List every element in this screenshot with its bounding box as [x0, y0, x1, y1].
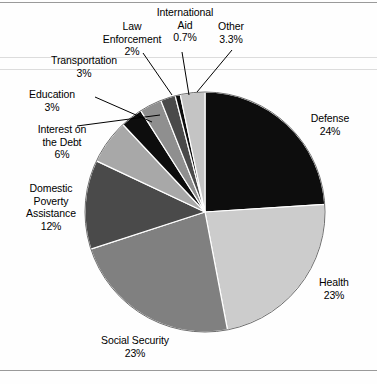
- transportation-value: 3%: [32, 67, 136, 80]
- slice-label-other: Other 3.3%: [198, 20, 264, 45]
- domestic-poverty-assistance-value: 12%: [8, 220, 94, 233]
- law-enforcement-label-line1: Law: [96, 20, 168, 33]
- domestic-poverty-assistance-label-line1: Domestic: [8, 182, 94, 195]
- pie-slice-defense[interactable]: [205, 92, 325, 212]
- slice-label-health: Health 23%: [298, 276, 370, 301]
- interest-on-the-debt-value: 6%: [22, 148, 102, 161]
- slice-label-law-enforcement: Law Enforcement 2%: [96, 20, 168, 58]
- health-value: 23%: [298, 289, 370, 302]
- domestic-poverty-assistance-label-line3: Assistance: [8, 207, 94, 220]
- international-aid-label-line1: International: [140, 6, 230, 19]
- slice-label-defense: Defense 24%: [290, 112, 370, 137]
- slice-label-education: Education 3%: [12, 88, 92, 113]
- interest-on-the-debt-label-line1: Interest on: [22, 123, 102, 136]
- defense-label: Defense: [290, 112, 370, 125]
- transportation-label: Transportation: [32, 54, 136, 67]
- slice-label-interest-on-the-debt: Interest on the Debt 6%: [22, 123, 102, 161]
- slice-label-social-security: Social Security 23%: [74, 334, 196, 359]
- pie-chart-page: International Aid 0.7% Other 3.3% Law En…: [0, 0, 377, 384]
- leader-line-international-aid: [182, 52, 189, 95]
- education-label: Education: [12, 88, 92, 101]
- leader-line-law-enforcement: [143, 53, 172, 95]
- other-value: 3.3%: [198, 33, 264, 46]
- slice-label-transportation: Transportation 3%: [32, 54, 136, 79]
- interest-on-the-debt-label-line2: the Debt: [22, 136, 102, 149]
- social-security-label: Social Security: [74, 334, 196, 347]
- leader-line-other: [197, 50, 232, 92]
- law-enforcement-label-line2: Enforcement: [96, 33, 168, 46]
- social-security-value: 23%: [74, 347, 196, 360]
- defense-value: 24%: [290, 125, 370, 138]
- other-label: Other: [198, 20, 264, 33]
- education-value: 3%: [12, 101, 92, 114]
- slice-label-domestic-poverty-assistance: Domestic Poverty Assistance 12%: [8, 182, 94, 232]
- domestic-poverty-assistance-label-line2: Poverty: [8, 195, 94, 208]
- pie-slices-group: [85, 92, 325, 332]
- federal-budget-pie-chart: International Aid 0.7% Other 3.3% Law En…: [0, 0, 377, 384]
- health-label: Health: [298, 276, 370, 289]
